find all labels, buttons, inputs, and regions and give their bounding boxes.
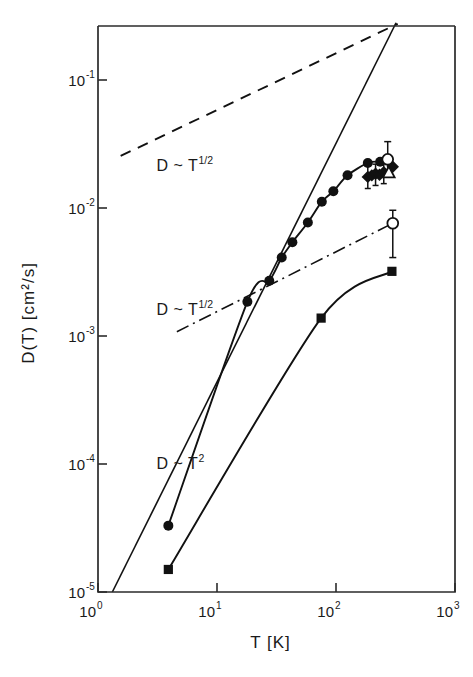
data-point-circle: [163, 521, 173, 531]
y-tick-exponent: -2: [86, 197, 95, 208]
x-tick-exponent: 1: [216, 600, 222, 611]
data-point-circle: [328, 186, 338, 196]
x-tick-exponent: 0: [97, 600, 103, 611]
annotation-exponent: 1/2: [198, 154, 213, 166]
y-tick-exponent: -5: [86, 581, 95, 592]
annotation-lower-square: D ~ T2: [156, 452, 204, 472]
y-tick-exponent: -3: [86, 325, 95, 336]
data-point-circle: [363, 158, 373, 168]
data-point-open-circle: [387, 218, 398, 229]
data-point-circle: [277, 253, 287, 263]
x-tick-exponent: 2: [335, 600, 341, 611]
x-tick-mantissa: 10: [436, 603, 453, 620]
y-tick-mantissa: 10: [68, 456, 85, 473]
data-point-square: [164, 565, 173, 574]
x-tick-exponent: 3: [454, 600, 460, 611]
data-point-open-circle: [382, 154, 393, 165]
x-tick-mantissa: 10: [79, 603, 96, 620]
annotation-text: D ~ T: [156, 455, 198, 472]
annotation-exponent: 1/2: [198, 298, 213, 310]
y-axis-title-text: D(T) [cm²/s]: [19, 262, 38, 364]
x-tick-mantissa: 10: [198, 603, 215, 620]
series-open-circle-upper: [382, 154, 393, 165]
annotation-exponent: 2: [198, 452, 204, 464]
y-tick-exponent: -1: [86, 69, 95, 80]
y-axis-title: D(T) [cm²/s]: [19, 262, 38, 364]
y-tick-mantissa: 10: [68, 72, 85, 89]
y-tick-mantissa: 10: [68, 328, 85, 345]
y-tick-mantissa: 10: [68, 584, 85, 601]
figure-container: 10-110-210-310-410-5100101102103 D ~ T1/…: [0, 0, 473, 677]
data-point-square: [387, 267, 396, 276]
data-point-circle: [303, 218, 313, 228]
x-axis-title: T [K]: [250, 633, 291, 652]
series-open-circle-lower: [387, 218, 398, 229]
data-point-circle: [242, 297, 252, 307]
y-tick-mantissa: 10: [68, 200, 85, 217]
data-point-circle: [287, 237, 297, 247]
data-point-circle: [317, 197, 327, 207]
data-point-circle: [264, 276, 274, 286]
annotation-text: D ~ T: [156, 301, 198, 318]
log-log-plot: 10-110-210-310-410-5100101102103 D ~ T1/…: [0, 0, 473, 677]
data-point-square: [317, 313, 326, 322]
data-point-circle: [343, 170, 353, 180]
y-tick-exponent: -4: [86, 453, 95, 464]
annotation-text: D ~ T: [156, 157, 198, 174]
x-tick-mantissa: 10: [317, 603, 334, 620]
